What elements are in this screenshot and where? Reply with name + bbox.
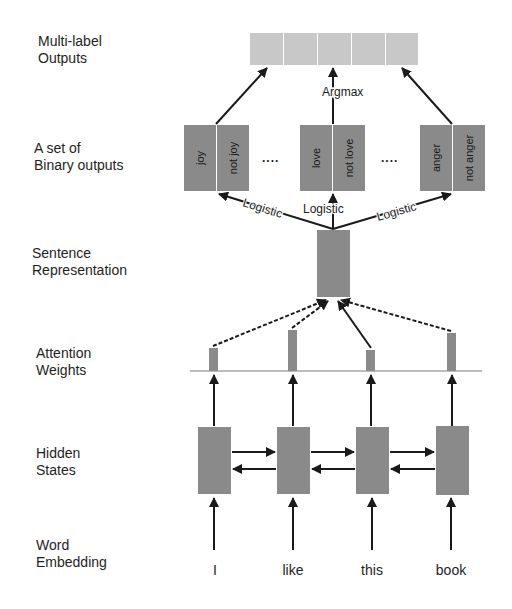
attention-bar: [366, 350, 375, 371]
binary-label-neg: not love: [343, 139, 355, 178]
hidden-state-box: [277, 427, 310, 494]
word-token: I: [213, 562, 217, 578]
word-token: book: [436, 562, 466, 578]
multi-label-output-bar: [250, 33, 418, 65]
binary-group-love: love not love: [300, 125, 365, 191]
hidden-state-box: [198, 427, 231, 494]
hidden-state-box: [436, 426, 469, 495]
binary-label-pos: love: [310, 148, 322, 168]
sentence-representation-box: [317, 230, 350, 297]
binary-group-joy: joy not joy: [184, 125, 249, 191]
logistic-label-center: Logistic: [303, 202, 344, 216]
binary-label-pos: anger: [430, 144, 442, 172]
ellipsis-left: ....: [262, 151, 279, 165]
architecture-diagram: Argmax joy not joy love not love anger n…: [0, 0, 512, 609]
logistic-label-right: Logistic: [375, 199, 418, 224]
word-token: this: [361, 562, 383, 578]
binary-group-anger: anger not anger: [420, 125, 485, 191]
binary-label-neg: not anger: [463, 134, 475, 181]
hidden-states: [198, 426, 469, 495]
argmax-label: Argmax: [322, 85, 363, 99]
attention-bar: [447, 333, 456, 371]
binary-label-neg: not joy: [227, 141, 239, 174]
word-to-hidden-arrows: [214, 498, 451, 550]
bidirectional-arrows: [232, 452, 435, 469]
attention-dashed-arrows: [213, 300, 451, 348]
attention-bar: [288, 330, 297, 371]
hidden-to-attention-arrows: [214, 375, 452, 426]
logistic-label-left: Logistic: [241, 195, 284, 220]
attention-bar: [209, 348, 218, 371]
hidden-state-box: [356, 427, 389, 494]
ellipsis-right: ....: [381, 151, 398, 165]
attention-bars: [209, 330, 456, 371]
binary-label-pos: joy: [194, 150, 206, 166]
word-token: like: [282, 562, 303, 578]
